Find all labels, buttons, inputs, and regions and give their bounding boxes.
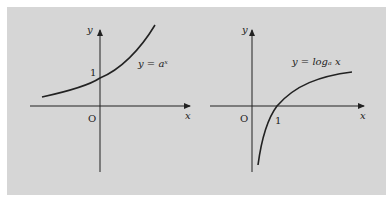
logarithm-graph: y x O 1 y = logₐ x — [210, 24, 366, 172]
y-axis-label: y — [86, 24, 93, 35]
origin-label: O — [240, 113, 248, 124]
function-label: y = logₐ x — [291, 56, 341, 67]
function-label: y = aˣ — [137, 58, 168, 69]
x-axis-label: x — [185, 110, 191, 121]
y-axis-label: y — [241, 24, 248, 35]
x-axis-label: x — [360, 110, 366, 121]
tick-label-1: 1 — [90, 67, 96, 78]
tick-label-1: 1 — [275, 115, 281, 126]
exponential-graph: y x O 1 y = aˣ — [30, 24, 191, 172]
origin-label: O — [88, 113, 96, 124]
graphs: y x O 1 y = aˣ y x O 1 y = logₐ x — [0, 0, 390, 203]
logarithm-curve — [258, 72, 352, 165]
